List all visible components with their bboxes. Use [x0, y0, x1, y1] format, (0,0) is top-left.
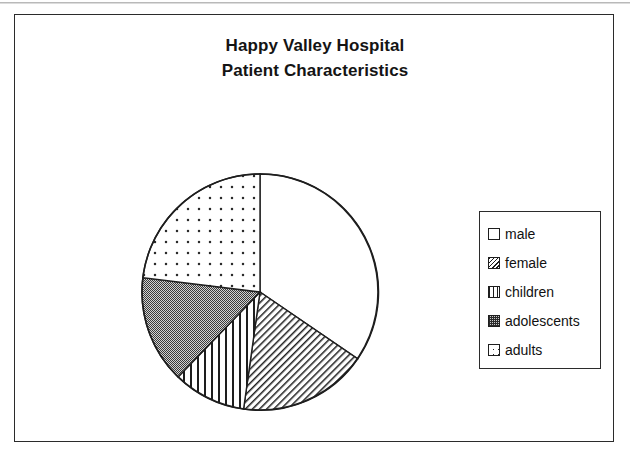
legend-item-female[interactable]: female	[488, 248, 600, 277]
pie-chart-svg	[141, 173, 381, 413]
chart-title-line-1: Happy Valley Hospital	[15, 33, 615, 58]
chart-title-line-2: Patient Characteristics	[15, 58, 615, 83]
legend-label-children: children	[505, 285, 554, 299]
legend-label-male: male	[505, 227, 535, 241]
legend-item-male[interactable]: male	[488, 219, 600, 248]
legend-label-female: female	[505, 256, 547, 270]
pie-chart	[141, 173, 381, 413]
legend-swatch-children-icon	[488, 286, 500, 298]
legend-swatch-adolescents-icon	[488, 315, 500, 327]
legend-swatch-female-icon	[488, 257, 500, 269]
legend-label-adults: adults	[505, 343, 542, 357]
legend-swatch-male-icon	[488, 228, 500, 240]
legend-item-adolescents[interactable]: adolescents	[488, 306, 600, 335]
legend-swatch-adults-icon	[488, 344, 500, 356]
page-top-rule-secondary	[0, 3, 630, 4]
legend-item-adults[interactable]: adults	[488, 335, 600, 364]
chart-frame: Happy Valley Hospital Patient Characteri…	[14, 14, 614, 442]
pie-slice-adults[interactable]	[143, 174, 260, 292]
chart-legend: male female children adolescents adults	[479, 211, 601, 369]
legend-label-adolescents: adolescents	[505, 314, 580, 328]
chart-title: Happy Valley Hospital Patient Characteri…	[15, 33, 615, 83]
legend-item-children[interactable]: children	[488, 277, 600, 306]
